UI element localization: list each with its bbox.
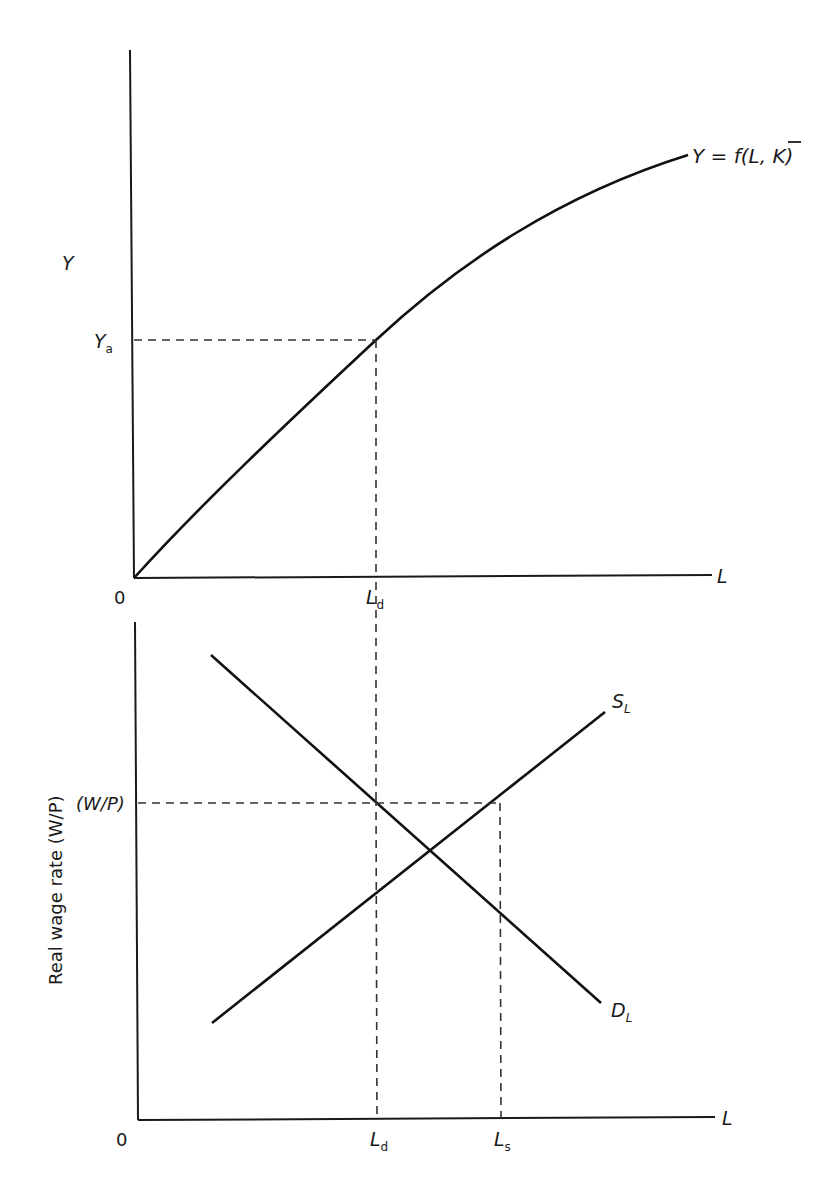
figure-canvas: Y Ya Y = f(L, K) L 0 Ld Real wage rate (… — [0, 0, 840, 1196]
top-y-axis — [130, 50, 134, 578]
ld-bottom-dashed-line — [376, 798, 377, 1118]
production-function-label: Y = f(L, K) — [692, 144, 793, 168]
sl-label: SL — [612, 690, 631, 716]
top-origin-label: 0 — [114, 587, 125, 608]
bottom-x-axis-label: L — [722, 1107, 733, 1129]
top-x-axis — [134, 575, 712, 578]
ls-dashed-line — [500, 803, 501, 1118]
dl-label: DL — [611, 999, 632, 1025]
top-x-axis-label: L — [717, 565, 728, 587]
ya-label: Ya — [94, 330, 113, 356]
labour-demand-curve — [211, 655, 601, 1003]
production-function-curve — [134, 155, 688, 578]
top-ld-label: Ld — [366, 586, 384, 612]
bottom-y-axis-title: Real wage rate (W/P) — [45, 795, 66, 985]
top-y-axis-label: Y — [62, 252, 75, 274]
bottom-x-axis — [138, 1117, 715, 1120]
wp-label: (W/P) — [76, 793, 125, 814]
labour-market-chart: Real wage rate (W/P) (W/P) SL DL L 0 Ld … — [45, 622, 733, 1154]
bottom-origin-label: 0 — [116, 1129, 127, 1150]
bottom-ld-label: Ld — [370, 1128, 388, 1154]
bottom-ls-label: Ls — [494, 1128, 511, 1154]
production-function-chart: Y Ya Y = f(L, K) L 0 Ld — [62, 50, 801, 798]
bottom-y-axis — [135, 622, 138, 1120]
labour-supply-curve — [212, 712, 605, 1023]
